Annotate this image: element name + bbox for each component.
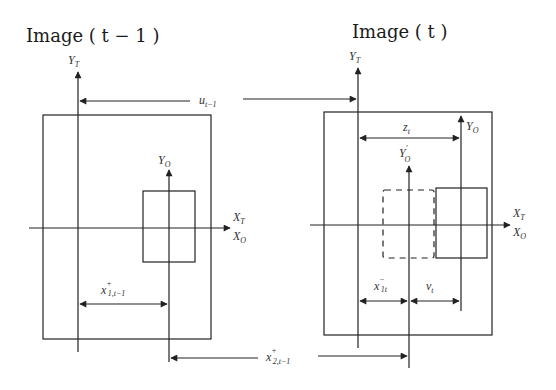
tracking-diagram: Image ( t − 1 ) Image ( t ) YT YO XT XO … <box>0 0 556 390</box>
label-u: ut−1 <box>199 93 217 109</box>
label-y-object-right: YO <box>466 119 479 135</box>
label-z: zt <box>402 120 411 136</box>
x2-dimension: x+2,t−1 <box>171 346 407 366</box>
u-dimension: ut−1 <box>80 93 356 109</box>
image-frame-right <box>324 112 492 335</box>
label-v: vt <box>426 279 434 295</box>
title-left: Image ( t − 1 ) <box>26 25 160 46</box>
label-y-object-prev: Y′O <box>399 144 410 164</box>
image-frame-left <box>43 115 211 339</box>
right-panel: YT YO Y′O zt XT XO x−1t vt <box>310 49 526 368</box>
label-x1-minus: x−1t <box>373 275 388 294</box>
label-x-target-right: XT <box>512 206 525 222</box>
label-x2-plus: x+2,t−1 <box>265 346 290 366</box>
label-x1-plus: x+1,t−1 <box>100 279 125 298</box>
title-right: Image ( t ) <box>352 21 448 42</box>
label-x-target-left: XT <box>232 210 245 226</box>
label-y-target-left: YT <box>68 53 80 69</box>
label-y-target-right: YT <box>349 49 361 65</box>
label-x-object-left: XO <box>232 229 246 245</box>
label-y-object-left: YO <box>158 153 171 169</box>
label-x-object-right: XO <box>512 225 526 241</box>
